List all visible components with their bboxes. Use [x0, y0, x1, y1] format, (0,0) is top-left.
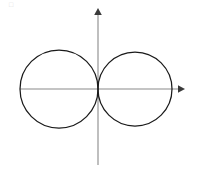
x-axis-arrowhead-icon: [178, 85, 185, 93]
axes-group: [20, 8, 185, 165]
y-axis-arrowhead-icon: [94, 8, 102, 15]
figure-canvas: □: [0, 0, 197, 171]
circles-diagram: [0, 0, 197, 171]
